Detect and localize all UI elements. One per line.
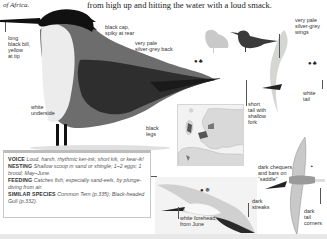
bill-leader-line — [5, 22, 6, 32]
short-tail-leader-line — [246, 80, 247, 106]
winter-icon: ❄ — [205, 187, 211, 193]
species-info-box: VOICE Loud, harsh, rhythmic ker-ink, sho… — [3, 150, 151, 218]
label-saddle: dark chequers and bars on “saddle” — [258, 164, 292, 182]
europe-map-graphic — [178, 105, 244, 166]
tail-corners-leader-line — [320, 188, 321, 204]
label-wings: very pale silver-grey wings — [295, 17, 320, 35]
label-back: very pale silver-grey back — [135, 40, 173, 52]
nest-icon: ♣ — [199, 58, 204, 64]
distribution-map — [177, 104, 244, 166]
age-icon: ◔ — [309, 163, 313, 170]
similar-species-entry: SIMILAR SPECIES Common Tern (p.335); Bla… — [8, 191, 146, 205]
box-connector-line — [151, 176, 157, 177]
page-bottom-band — [0, 234, 327, 239]
label-short-tail: short tail with shallow fork — [248, 101, 266, 125]
nest-icon: ♣ — [313, 60, 318, 66]
flight-adult-illustration — [262, 28, 302, 116]
label-bill: long black bill, yellow at tip — [8, 35, 30, 59]
wings-leader-line — [279, 34, 280, 58]
nesting-entry: NESTING Shallow scoop in sand or shingle… — [8, 163, 146, 177]
tail-leader-line — [322, 80, 323, 89]
symbol-group-flight: ●❄ — [200, 186, 211, 193]
symbol-group-upper: ●♣ — [194, 58, 204, 64]
pale-gull-silhouette — [205, 30, 228, 53]
label-tail-corners: dark tail corners — [304, 208, 322, 226]
label-forehead: white forehead, from June — [180, 215, 217, 227]
forehead-leader-line — [178, 207, 179, 219]
symbol-group-right: ●♣ — [308, 60, 318, 66]
feeding-entry: FEEDING Catches fish, especially sand-ee… — [8, 177, 146, 191]
label-legs: black legs — [146, 125, 159, 137]
label-streaks: dark streaks — [252, 198, 269, 210]
label-white-tail: white tail — [303, 90, 316, 102]
streaks-leader-line — [248, 203, 249, 217]
voice-entry: VOICE Loud, harsh, rhythmic ker-ink, sho… — [8, 156, 146, 163]
label-cap: black cap, spiky at rear — [105, 24, 134, 36]
label-underside: white underside — [31, 104, 55, 116]
